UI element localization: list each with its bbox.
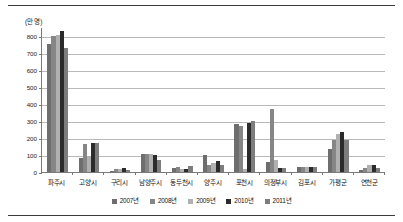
legend-item[interactable]: 2008년 <box>150 198 177 204</box>
legend-label: 2007년 <box>120 198 139 204</box>
bar <box>126 170 130 172</box>
x-axis-label: 양주시 <box>197 176 228 190</box>
legend-item[interactable]: 2010년 <box>226 198 253 204</box>
legend-swatch-icon <box>150 199 155 204</box>
y-axis-tick-label: 0 <box>34 170 37 176</box>
x-axis-label: 의정부시 <box>260 176 291 190</box>
y-axis-tick <box>39 173 42 174</box>
x-axis-label: 김포시 <box>291 176 322 190</box>
chart-page: (만 명) 0100200300400500600700800 파주시고양시구리… <box>0 0 403 222</box>
y-axis-tick-label: 400 <box>27 102 37 108</box>
x-axis-tick <box>166 172 167 175</box>
bar-group <box>167 28 198 172</box>
bar-group <box>292 28 323 172</box>
x-axis-tick <box>72 172 73 175</box>
x-axis-label: 구리시 <box>104 176 135 190</box>
x-axis-tick <box>291 172 292 175</box>
bar <box>313 167 317 172</box>
y-axis-tick-label: 300 <box>27 119 37 125</box>
bar <box>282 168 286 172</box>
bar-group <box>323 28 354 172</box>
bar <box>188 166 192 172</box>
legend-swatch-icon <box>112 199 117 204</box>
x-axis-tick <box>384 172 385 175</box>
bar-groups <box>42 28 385 172</box>
legend-item[interactable]: 2007년 <box>112 198 139 204</box>
x-axis-tick <box>353 172 354 175</box>
y-axis-unit-label: (만 명) <box>25 16 42 26</box>
x-axis-tick <box>322 172 323 175</box>
top-divider-rule <box>8 5 395 6</box>
legend-item[interactable]: 2011년 <box>265 198 292 204</box>
x-axis-tick <box>135 172 136 175</box>
bar <box>251 121 255 172</box>
bar-group <box>260 28 291 172</box>
legend-swatch-icon <box>265 199 270 204</box>
legend-label: 2009년 <box>196 198 215 204</box>
x-axis-labels: 파주시고양시구리시남양주시동두천시양주시포천시의정부시김포시가평군연천군 <box>41 176 385 190</box>
y-axis-tick-label: 600 <box>27 68 37 74</box>
bar <box>64 48 68 172</box>
plot-area: 0100200300400500600700800 <box>41 28 385 173</box>
bar-group <box>42 28 73 172</box>
legend-swatch-icon <box>188 199 193 204</box>
x-axis-tick <box>228 172 229 175</box>
x-axis-label: 연천군 <box>354 176 385 190</box>
y-axis-tick-label: 500 <box>27 85 37 91</box>
bar <box>220 165 224 172</box>
x-axis-tick <box>259 172 260 175</box>
bar-group <box>73 28 104 172</box>
legend-item[interactable]: 2009년 <box>188 198 215 204</box>
legend-label: 2011년 <box>273 198 292 204</box>
legend-label: 2010년 <box>234 198 253 204</box>
bar-group <box>229 28 260 172</box>
x-axis-label: 고양시 <box>72 176 103 190</box>
y-axis-tick-label: 700 <box>27 50 37 56</box>
bar-group <box>354 28 385 172</box>
chart-legend: 2007년2008년2009년2010년2011년 <box>0 194 403 208</box>
bar-group <box>136 28 167 172</box>
legend-label: 2008년 <box>158 198 177 204</box>
x-axis-label: 남양주시 <box>135 176 166 190</box>
x-axis-label: 동두천시 <box>166 176 197 190</box>
y-axis-tick-label: 800 <box>27 33 37 39</box>
x-axis-tick <box>197 172 198 175</box>
bar-group <box>198 28 229 172</box>
x-axis-label: 파주시 <box>41 176 72 190</box>
bar-group <box>104 28 135 172</box>
x-axis-tick <box>103 172 104 175</box>
bar <box>239 126 243 172</box>
bar <box>95 143 99 172</box>
bar <box>376 168 380 172</box>
bottom-divider-rule <box>8 215 395 216</box>
y-axis-tick-label: 100 <box>27 153 37 159</box>
x-axis-label: 포천시 <box>229 176 260 190</box>
bar <box>157 160 161 172</box>
x-axis-label: 가평군 <box>322 176 353 190</box>
legend-swatch-icon <box>226 199 231 204</box>
bar <box>344 140 348 172</box>
y-axis-tick-label: 200 <box>27 136 37 142</box>
